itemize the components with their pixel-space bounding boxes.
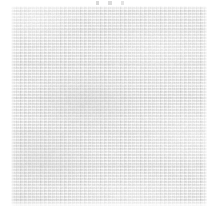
scanner-artifact-marks xyxy=(86,1,132,5)
image-canvas xyxy=(0,0,214,212)
weave-cell-offset-layer xyxy=(11,6,207,206)
fabric-swatch xyxy=(11,6,207,206)
